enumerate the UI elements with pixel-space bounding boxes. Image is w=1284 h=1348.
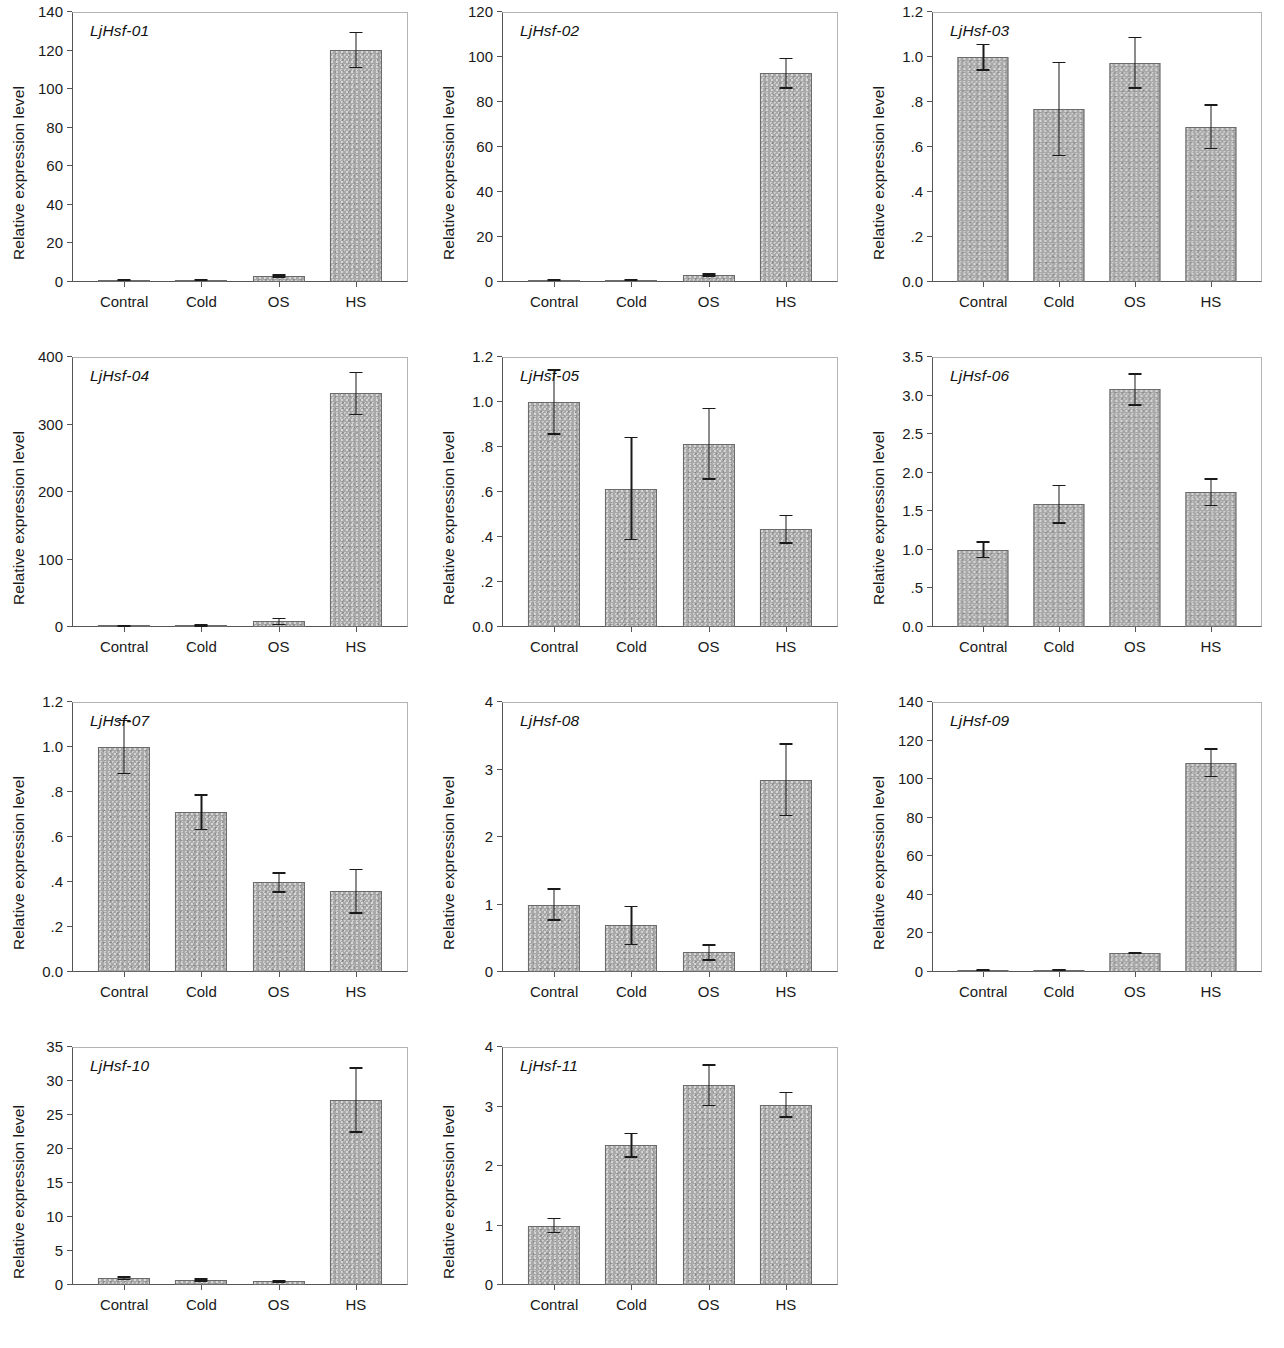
y-axis-title: Relative expression level: [436, 1035, 462, 1348]
error-bar-cold: [625, 1133, 638, 1158]
chart-panel-ljhsf-05: Relative expression level0.0.2.4.6.81.01…: [430, 345, 860, 690]
error-bar-stem: [355, 869, 356, 914]
error-bar-stem: [1059, 62, 1060, 157]
plot-area: 020406080100120140ContralColdOSHS: [72, 12, 408, 282]
x-tick-mark: [124, 1285, 125, 1290]
x-tick-mark: [1135, 627, 1136, 632]
x-tick-mark: [124, 972, 125, 977]
error-bar-cap-bottom: [977, 69, 990, 70]
x-tick-mark: [983, 972, 984, 977]
error-bar-cap-top: [349, 372, 362, 373]
error-bar-stem: [983, 44, 984, 71]
x-tick-label: HS: [1200, 983, 1221, 1001]
bar-hs: [760, 73, 812, 282]
panel-title: LjHsf-05: [520, 367, 579, 385]
bar-series: [72, 357, 408, 627]
x-tick-label: Contral: [100, 983, 148, 1001]
error-bar-os: [1128, 373, 1141, 405]
error-bar-cap-top: [625, 1133, 638, 1134]
panel-title: LjHsf-10: [90, 1057, 149, 1075]
error-bar-contral: [548, 279, 561, 281]
y-tick-label: .8: [50, 783, 63, 800]
y-tick-label: 100: [468, 48, 493, 65]
bar-cold: [605, 1145, 657, 1285]
x-tick-label: Cold: [616, 293, 647, 311]
y-axis-title-text: Relative expression level: [10, 86, 28, 260]
empty-panel: [860, 1035, 1284, 1348]
error-bar-cap-bottom: [272, 891, 285, 892]
x-tick-mark: [356, 972, 357, 977]
x-tick-label: OS: [698, 293, 720, 311]
x-tick-label: HS: [1200, 293, 1221, 311]
y-tick-label: 15: [46, 1174, 63, 1191]
y-tick-label: 4: [485, 1038, 493, 1055]
error-bar-cap-top: [779, 743, 792, 744]
error-bar-stem: [1210, 104, 1211, 149]
y-axis-title: Relative expression level: [6, 345, 32, 690]
y-axis-title-text: Relative expression level: [10, 776, 28, 950]
bar-hs: [330, 50, 382, 282]
plot-area: 020406080100120140ContralColdOSHS: [932, 702, 1262, 972]
error-bar-contral: [548, 1218, 561, 1233]
y-tick-label: .5: [910, 579, 923, 596]
error-bar-contral: [977, 541, 990, 558]
plot-area: 01234ContralColdOSHS: [502, 702, 838, 972]
error-bar-os: [702, 944, 715, 960]
error-bar-stem: [708, 408, 709, 480]
x-tick-label: Cold: [186, 1296, 217, 1314]
error-bar-cap-bottom: [1204, 776, 1217, 777]
y-tick-label: 120: [898, 732, 923, 749]
x-axis-ticks: ContralColdOSHS: [932, 972, 1262, 1035]
x-tick-mark: [201, 627, 202, 632]
error-bar-stem: [708, 944, 709, 960]
error-bar-stem: [355, 1067, 356, 1132]
error-bar-cold: [1053, 62, 1066, 157]
error-bar-cap-top: [779, 58, 792, 59]
x-tick-label: HS: [775, 293, 796, 311]
y-tick-label: 5: [55, 1242, 63, 1259]
multi-panel-bar-chart-figure: Relative expression level020406080100120…: [0, 0, 1284, 1348]
bar-series: [932, 702, 1262, 972]
x-tick-label: HS: [775, 1296, 796, 1314]
x-tick-label: OS: [1124, 638, 1146, 656]
error-bar-os: [702, 273, 715, 276]
error-bar-stem: [631, 1133, 632, 1158]
error-bar-cap-bottom: [349, 414, 362, 415]
y-tick-label: 1.5: [902, 502, 923, 519]
x-tick-label: Cold: [1044, 293, 1075, 311]
x-tick-mark: [709, 282, 710, 287]
x-tick-label: Cold: [186, 638, 217, 656]
bar-hs: [760, 529, 812, 627]
error-bar-cap-bottom: [702, 959, 715, 960]
chart-panel-ljhsf-08: Relative expression level01234ContralCol…: [430, 690, 860, 1035]
x-tick-label: OS: [698, 1296, 720, 1314]
bar-series: [932, 357, 1262, 627]
y-tick-label: 80: [46, 119, 63, 136]
x-tick-mark: [631, 282, 632, 287]
y-tick-label: 0.0: [902, 618, 923, 635]
x-tick-mark: [1059, 972, 1060, 977]
error-bar-cap-top: [1128, 373, 1141, 374]
error-bar-cap-bottom: [349, 912, 362, 913]
y-tick-label: 0: [485, 273, 493, 290]
y-axis-title: Relative expression level: [6, 690, 32, 1035]
x-tick-label: Cold: [1044, 638, 1075, 656]
x-tick-label: OS: [268, 638, 290, 656]
y-tick-label: 0: [55, 1276, 63, 1293]
error-bar-hs: [779, 58, 792, 89]
error-bar-hs: [779, 743, 792, 816]
y-tick-label: 60: [476, 138, 493, 155]
error-bar-contral: [977, 969, 990, 971]
x-tick-label: Contral: [530, 293, 578, 311]
x-tick-label: HS: [775, 638, 796, 656]
error-bar-stem: [785, 58, 786, 89]
error-bar-stem: [631, 437, 632, 541]
error-bar-cap-bottom: [702, 1105, 715, 1106]
error-bar-hs: [1204, 104, 1217, 149]
error-bar-contral: [548, 888, 561, 920]
x-axis-ticks: ContralColdOSHS: [502, 282, 838, 345]
bar-os: [1109, 953, 1160, 972]
y-tick-label: 100: [38, 80, 63, 97]
y-tick-label: 0: [485, 1276, 493, 1293]
x-tick-mark: [279, 627, 280, 632]
